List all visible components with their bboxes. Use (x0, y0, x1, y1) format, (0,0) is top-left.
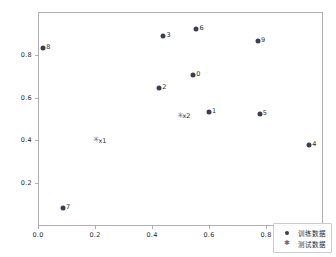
x-axis-tick (152, 226, 153, 229)
data-point-label: 2 (162, 83, 166, 91)
data-point-marker (41, 46, 46, 51)
x-axis-tick (209, 226, 210, 229)
y-axis-tick (35, 183, 38, 184)
data-point-marker (157, 85, 162, 90)
x-axis-tick-label: 0.6 (203, 231, 214, 239)
x-axis-tick (95, 226, 96, 229)
x-axis-tick (266, 226, 267, 229)
data-point-label: 0 (196, 70, 200, 78)
star-marker-icon: ✱ (278, 240, 296, 247)
data-point-marker (191, 73, 196, 78)
x-axis-tick-label: 0.2 (89, 231, 100, 239)
data-point-label: 1 (212, 107, 216, 115)
data-point-label: 5 (263, 109, 267, 117)
data-point-label: 7 (66, 203, 70, 211)
x-axis-tick (38, 226, 39, 229)
y-axis-tick (35, 98, 38, 99)
legend-entry-test: ✱ 测试数据 (278, 238, 326, 249)
legend-entry-train: 训练数据 (278, 227, 326, 238)
legend: 训练数据 ✱ 测试数据 (273, 223, 332, 253)
y-axis-tick (35, 55, 38, 56)
y-axis-tick-label: 0.2 (21, 179, 32, 187)
test-point-label: x1 (98, 137, 106, 145)
data-point-marker (161, 33, 166, 38)
x-axis-tick-label: 0.0 (32, 231, 43, 239)
y-axis-tick-label: 0.6 (21, 94, 32, 102)
x-axis-tick-label: 0.4 (146, 231, 157, 239)
x-axis-tick-label: 0.8 (260, 231, 271, 239)
test-point-label: x2 (183, 112, 191, 120)
data-point-label: 9 (261, 36, 265, 44)
y-axis-tick-label: 0.4 (21, 136, 32, 144)
data-point-marker (256, 38, 261, 43)
legend-label-train: 训练数据 (296, 228, 326, 238)
y-axis-tick-label: 0.8 (21, 51, 32, 59)
y-axis-tick (35, 140, 38, 141)
data-point-label: 3 (166, 31, 170, 39)
scatter-plot-figure: 0.00.20.40.60.81.0 0.20.40.60.8 01234567… (0, 0, 336, 257)
data-point-marker (207, 109, 212, 114)
data-point-label: 4 (312, 140, 316, 148)
data-point-marker (61, 205, 66, 210)
data-point-label: 6 (199, 24, 203, 32)
data-point-marker (194, 27, 199, 32)
data-point-marker (307, 142, 312, 147)
circle-marker-icon (278, 231, 296, 235)
legend-label-test: 测试数据 (296, 239, 326, 249)
data-point-marker (257, 111, 262, 116)
data-point-label: 8 (46, 43, 50, 51)
